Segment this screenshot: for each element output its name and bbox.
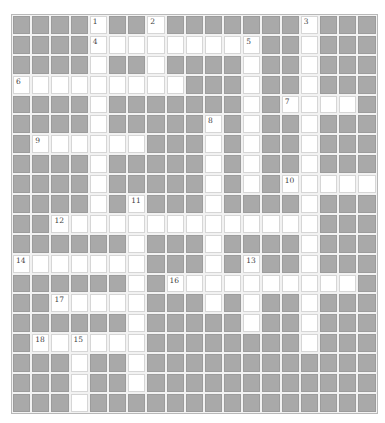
crossword-cell[interactable] — [224, 36, 241, 54]
crossword-cell[interactable] — [243, 215, 260, 233]
crossword-cell[interactable] — [128, 135, 145, 153]
crossword-cell[interactable] — [90, 96, 107, 114]
crossword-cell[interactable] — [282, 215, 299, 233]
crossword-cell[interactable] — [128, 314, 145, 332]
crossword-cell[interactable]: 5 — [243, 36, 260, 54]
crossword-cell[interactable] — [128, 354, 145, 372]
crossword-cell[interactable] — [109, 294, 126, 312]
crossword-cell[interactable] — [301, 334, 318, 352]
crossword-cell[interactable]: 6 — [13, 76, 30, 94]
crossword-cell[interactable]: 10 — [282, 175, 299, 193]
crossword-cell[interactable] — [205, 235, 222, 253]
crossword-cell[interactable] — [90, 175, 107, 193]
crossword-cell[interactable] — [109, 135, 126, 153]
crossword-cell[interactable]: 8 — [205, 115, 222, 133]
crossword-cell[interactable] — [205, 255, 222, 273]
crossword-cell[interactable] — [243, 314, 260, 332]
crossword-cell[interactable] — [147, 36, 164, 54]
crossword-cell[interactable] — [186, 275, 203, 293]
crossword-cell[interactable] — [71, 215, 88, 233]
crossword-cell[interactable] — [205, 294, 222, 312]
crossword-cell[interactable] — [243, 115, 260, 133]
crossword-cell[interactable] — [301, 96, 318, 114]
crossword-cell[interactable] — [320, 96, 337, 114]
crossword-cell[interactable] — [262, 275, 279, 293]
crossword-cell[interactable] — [32, 76, 49, 94]
crossword-cell[interactable] — [301, 36, 318, 54]
crossword-cell[interactable] — [282, 275, 299, 293]
crossword-cell[interactable] — [301, 155, 318, 173]
crossword-cell[interactable] — [301, 275, 318, 293]
crossword-cell[interactable] — [243, 294, 260, 312]
crossword-cell[interactable] — [90, 135, 107, 153]
crossword-cell[interactable] — [205, 135, 222, 153]
crossword-cell[interactable] — [262, 215, 279, 233]
crossword-cell[interactable] — [301, 235, 318, 253]
crossword-cell[interactable] — [243, 155, 260, 173]
crossword-cell[interactable]: 16 — [167, 275, 184, 293]
crossword-cell[interactable] — [71, 374, 88, 392]
crossword-cell[interactable]: 18 — [32, 334, 49, 352]
crossword-cell[interactable]: 11 — [128, 195, 145, 213]
crossword-cell[interactable] — [128, 294, 145, 312]
crossword-cell[interactable] — [358, 175, 375, 193]
crossword-cell[interactable] — [109, 36, 126, 54]
crossword-cell[interactable] — [205, 275, 222, 293]
crossword-cell[interactable] — [301, 215, 318, 233]
crossword-cell[interactable] — [205, 175, 222, 193]
crossword-cell[interactable] — [186, 215, 203, 233]
crossword-cell[interactable] — [243, 76, 260, 94]
crossword-cell[interactable]: 4 — [90, 36, 107, 54]
crossword-cell[interactable] — [90, 294, 107, 312]
crossword-cell[interactable] — [71, 255, 88, 273]
crossword-cell[interactable] — [243, 56, 260, 74]
crossword-cell[interactable] — [128, 235, 145, 253]
crossword-cell[interactable]: 3 — [301, 16, 318, 34]
crossword-cell[interactable] — [109, 76, 126, 94]
crossword-cell[interactable] — [167, 215, 184, 233]
crossword-cell[interactable] — [90, 334, 107, 352]
crossword-cell[interactable] — [90, 56, 107, 74]
crossword-cell[interactable] — [90, 195, 107, 213]
crossword-cell[interactable] — [339, 96, 356, 114]
crossword-cell[interactable] — [167, 36, 184, 54]
crossword-cell[interactable] — [90, 255, 107, 273]
crossword-cell[interactable] — [301, 56, 318, 74]
crossword-cell[interactable]: 2 — [147, 16, 164, 34]
crossword-cell[interactable] — [109, 215, 126, 233]
crossword-cell[interactable] — [147, 215, 164, 233]
crossword-cell[interactable] — [301, 76, 318, 94]
crossword-cell[interactable] — [243, 135, 260, 153]
crossword-cell[interactable] — [128, 374, 145, 392]
crossword-cell[interactable] — [90, 76, 107, 94]
crossword-cell[interactable] — [71, 76, 88, 94]
crossword-cell[interactable] — [167, 76, 184, 94]
crossword-cell[interactable] — [51, 135, 68, 153]
crossword-cell[interactable] — [51, 255, 68, 273]
crossword-cell[interactable] — [301, 255, 318, 273]
crossword-cell[interactable] — [205, 155, 222, 173]
crossword-cell[interactable] — [128, 36, 145, 54]
crossword-cell[interactable]: 1 — [90, 16, 107, 34]
crossword-cell[interactable]: 14 — [13, 255, 30, 273]
crossword-cell[interactable] — [90, 115, 107, 133]
crossword-cell[interactable]: 9 — [32, 135, 49, 153]
crossword-cell[interactable] — [301, 135, 318, 153]
crossword-cell[interactable] — [243, 275, 260, 293]
crossword-cell[interactable] — [71, 135, 88, 153]
crossword-cell[interactable] — [320, 175, 337, 193]
crossword-cell[interactable] — [128, 275, 145, 293]
crossword-cell[interactable] — [90, 155, 107, 173]
crossword-cell[interactable] — [301, 115, 318, 133]
crossword-cell[interactable] — [71, 354, 88, 372]
crossword-cell[interactable] — [51, 334, 68, 352]
crossword-cell[interactable] — [339, 175, 356, 193]
crossword-cell[interactable] — [128, 334, 145, 352]
crossword-cell[interactable] — [301, 195, 318, 213]
crossword-cell[interactable]: 13 — [243, 255, 260, 273]
crossword-cell[interactable] — [243, 175, 260, 193]
crossword-cell[interactable] — [205, 195, 222, 213]
crossword-cell[interactable] — [320, 275, 337, 293]
crossword-cell[interactable] — [205, 36, 222, 54]
crossword-cell[interactable] — [109, 334, 126, 352]
